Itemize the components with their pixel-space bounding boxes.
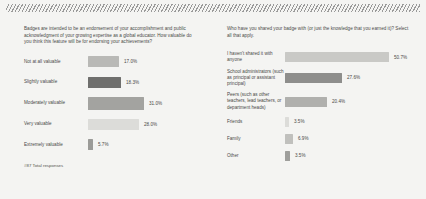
bar-value-label: 5.7% (98, 142, 108, 147)
bar-mark (88, 56, 119, 67)
bar-value-label: 27.6% (347, 75, 360, 80)
bar-value-label: 31.0% (149, 101, 162, 106)
chart-panel-shared-with: Who have you shared your badge with (or … (213, 20, 426, 199)
category-label: Peers (such as other teachers, lead teac… (227, 92, 285, 111)
bar-value-label: 18.3% (126, 80, 139, 85)
bar-value-label: 3.5% (294, 119, 304, 124)
bar-row: Friends 3.5% (227, 116, 420, 128)
category-label: I haven't shared it with anyone (227, 51, 285, 63)
bar-rows-valuable: Not at all valuable 17.0% Slightly valua… (24, 56, 205, 160)
bar-area: 27.6% (285, 73, 420, 83)
category-label: Very valuable (24, 121, 88, 127)
bar-row: Slightly valuable 18.3% (24, 76, 205, 88)
bar-value-label: 3.5% (295, 153, 305, 158)
bar-value-label: 6.9% (298, 136, 308, 141)
chart-panel-valuable: Badges are intended to be an endorsement… (0, 20, 213, 199)
bar-mark (88, 119, 139, 130)
bar-row: Very valuable 28.0% (24, 118, 205, 130)
category-label: Slightly valuable (24, 79, 88, 85)
bar-row: I haven't shared it with anyone 50.7% (227, 51, 420, 63)
bar-mark (285, 73, 342, 83)
bar-area: 18.3% (88, 77, 205, 88)
chart-title-shared-with: Who have you shared your badge with (or … (227, 26, 409, 39)
bar-area: 28.0% (88, 119, 205, 130)
bar-area: 50.7% (285, 52, 420, 62)
bar-row: Moderately valuable 31.0% (24, 97, 205, 110)
bar-area: 20.4% (285, 97, 420, 107)
decorative-hatch-band (6, 4, 420, 12)
bar-row: Family 6.9% (227, 133, 420, 145)
category-label: Other (227, 153, 285, 159)
bar-row: Peers (such as other teachers, lead teac… (227, 92, 420, 111)
category-label: Extremely valuable (24, 142, 88, 148)
bar-area: 6.9% (285, 134, 420, 144)
bar-row: Not at all valuable 17.0% (24, 56, 205, 68)
bar-mark (285, 97, 327, 107)
bar-mark (88, 97, 144, 110)
bar-mark (285, 52, 389, 62)
charts-container: Badges are intended to be an endorsement… (0, 20, 426, 199)
bar-value-label: 20.4% (332, 99, 345, 104)
bar-row: School administrators (such as principal… (227, 69, 420, 88)
category-label: School administrators (such as principal… (227, 69, 285, 88)
bar-mark (88, 77, 121, 88)
bar-value-label: 28.0% (144, 122, 157, 127)
bar-area: 17.0% (88, 56, 205, 67)
bar-row: Extremely valuable 5.7% (24, 139, 205, 151)
bar-value-label: 50.7% (394, 55, 407, 60)
total-responses-footnote: #87 Total responses (24, 163, 205, 168)
category-label: Family (227, 136, 285, 142)
bar-mark (88, 139, 93, 150)
bar-value-label: 17.0% (124, 59, 137, 64)
category-label: Moderately valuable (24, 100, 88, 106)
bar-area: 31.0% (88, 97, 205, 110)
bar-mark (285, 134, 293, 144)
bar-rows-shared-with: I haven't shared it with anyone 50.7% Sc… (227, 51, 420, 167)
bar-area: 5.7% (88, 139, 205, 150)
bar-area: 3.5% (285, 117, 420, 127)
category-label: Not at all valuable (24, 59, 88, 65)
bar-mark (285, 151, 290, 161)
chart-title-valuable: Badges are intended to be an endorsement… (24, 26, 196, 46)
bar-row: Other 3.5% (227, 150, 420, 162)
bar-mark (285, 117, 289, 127)
bar-area: 3.5% (285, 151, 420, 161)
category-label: Friends (227, 119, 285, 125)
